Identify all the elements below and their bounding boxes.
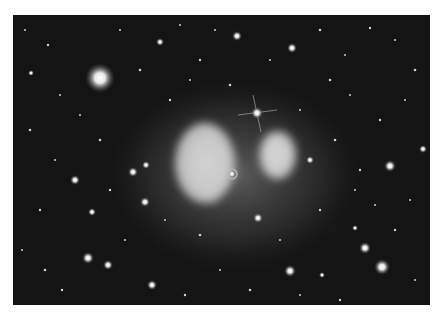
astronomical-photo: Grayscale deep-field astronomical photog… xyxy=(13,15,430,305)
bright-star xyxy=(85,63,115,93)
galaxy-cluster-image xyxy=(13,15,430,305)
